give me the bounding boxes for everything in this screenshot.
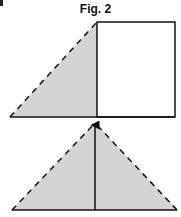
bottom-panel xyxy=(12,123,177,210)
figure-diagram xyxy=(0,0,181,217)
square xyxy=(97,22,175,117)
top-panel xyxy=(10,22,175,117)
